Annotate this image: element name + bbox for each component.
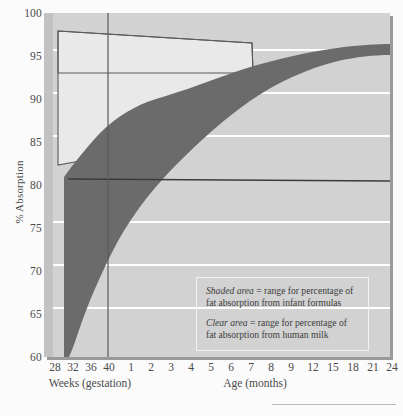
y-axis-label: % Absorption [13,147,25,237]
legend: Shaded area = range for percentage of fa… [196,277,369,351]
page-rule [272,404,396,405]
axis-strip [44,13,53,357]
legend-key-clear: Clear area [206,317,247,328]
y-tick-90: 90 [10,93,42,105]
legend-entry-clear: Clear area = range for percentage of fat… [206,317,359,342]
y-tick-100: 100 [10,7,42,19]
x-tick-month-24: 24 [379,361,403,373]
y-tick-60: 60 [10,351,42,363]
legend-entry-shaded: Shaded area = range for percentage of fa… [206,285,359,310]
y-tick-70: 70 [10,265,42,277]
y-tick-65: 65 [10,308,42,320]
y-tick-95: 95 [10,50,42,62]
legend-key-shaded: Shaded area [206,285,254,296]
absorption-chart: 100 95 90 85 80 75 70 65 60 % Absorption [0,0,403,416]
x-axis-title-gestation: Weeks (gestation) [20,377,160,389]
x-axis-title-months: Age (months) [185,377,325,389]
